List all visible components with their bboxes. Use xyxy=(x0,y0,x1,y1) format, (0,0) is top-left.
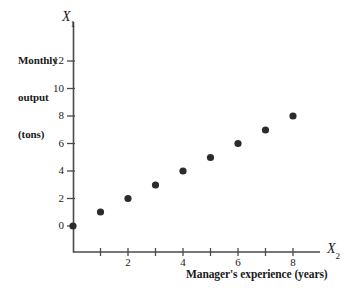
y-tick-label-2: 2 xyxy=(44,192,64,204)
data-point xyxy=(207,154,214,161)
y-axis-variable-label: X1 xyxy=(62,9,75,27)
y-tick-label-6: 6 xyxy=(44,137,64,149)
x-tick-label-8: 8 xyxy=(283,256,303,268)
data-point xyxy=(262,126,269,133)
x-axis-variable-label: X2 xyxy=(327,241,340,259)
data-point xyxy=(124,195,131,202)
data-point xyxy=(69,222,76,229)
scatter-plot-figure: X1 X2 Monthly output (tons) Manager's ex… xyxy=(0,0,357,295)
data-point xyxy=(97,208,104,215)
y-tick-label-0: 0 xyxy=(44,219,64,231)
y-tick-label-10: 10 xyxy=(44,82,64,94)
data-point xyxy=(152,181,159,188)
y-tick-label-4: 4 xyxy=(44,164,64,176)
x-tick-label-2: 2 xyxy=(118,256,138,268)
y-tick-label-8: 8 xyxy=(44,109,64,121)
data-point xyxy=(289,112,296,119)
x-tick-label-4: 4 xyxy=(173,256,193,268)
x-axis-variable-base: X xyxy=(327,241,336,256)
y-axis-variable-base: X xyxy=(62,9,71,24)
x-tick-label-6: 6 xyxy=(228,256,248,268)
y-axis-variable-subscript: 1 xyxy=(71,19,76,29)
y-tick-label-12: 12 xyxy=(44,54,64,66)
data-point-series xyxy=(69,112,296,229)
x-axis-title: Manager's experience (years) xyxy=(186,268,328,281)
data-point xyxy=(234,140,241,147)
data-point xyxy=(179,167,186,174)
x-axis-variable-subscript: 2 xyxy=(336,251,341,261)
